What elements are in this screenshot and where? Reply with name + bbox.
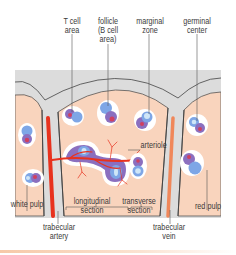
tissue-block (15, 70, 221, 218)
t-cell-area-nodule (62, 106, 84, 126)
label-arteriole: arteriole (141, 141, 170, 150)
white-pulp-nodule (22, 169, 44, 187)
label-trabecular-vein: trabecular vein (153, 223, 185, 241)
label-trabecular-artery: trabecular artery (43, 223, 75, 241)
red-pulp-left-lobule (15, 95, 44, 216)
white-pulp-nodule (18, 123, 36, 147)
marginal-zone-nodule (134, 109, 156, 131)
transverse-section-nodule (129, 153, 147, 179)
label-follicle: follicle (B cell area) (93, 17, 124, 44)
label-transverse-section: transverse section (122, 197, 156, 215)
label-white-pulp: white pulp (11, 200, 43, 209)
label-longitudinal-section: longitudinal section (72, 197, 113, 215)
label-marginal-zone: marginal zone (135, 17, 166, 35)
white-pulp-nodule (180, 150, 204, 176)
label-germinal-center: germinal center (182, 17, 213, 35)
label-red-pulp: red pulp (193, 202, 224, 211)
bottom-accent-bar (0, 250, 236, 253)
label-t-cell-area: T cell area (60, 17, 84, 35)
